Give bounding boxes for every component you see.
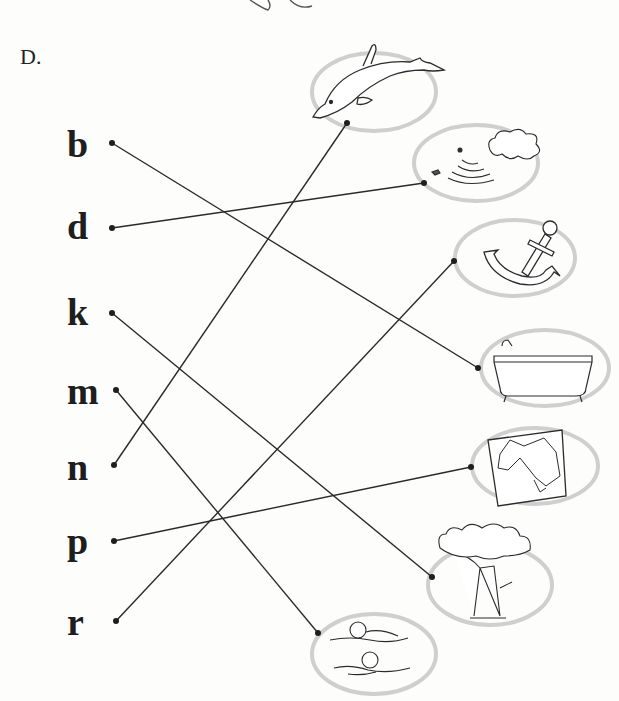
picture-frame-anchor (455, 220, 575, 296)
dot-swimmers[interactable] (315, 630, 321, 636)
line-b-bathtub (112, 143, 478, 368)
dot-b[interactable] (109, 140, 115, 146)
dot-k[interactable] (109, 310, 115, 316)
map-icon (488, 430, 566, 506)
dot-m[interactable] (113, 387, 119, 393)
dolphin-icon (313, 45, 444, 118)
dot-n[interactable] (111, 462, 117, 468)
dot-d[interactable] (109, 225, 115, 231)
splash-icon (432, 129, 540, 183)
dot-dolphin[interactable] (344, 120, 350, 126)
swimmers-icon (330, 622, 410, 675)
dot-splash[interactable] (421, 180, 427, 186)
top-decoration-fragment (250, 0, 312, 10)
line-r-anchor (116, 261, 454, 621)
dot-anchor[interactable] (451, 258, 457, 264)
dot-p[interactable] (111, 538, 117, 544)
line-n-dolphin (114, 123, 347, 465)
dot-r[interactable] (113, 618, 119, 624)
line-d-splash (112, 183, 424, 228)
bathtub-icon (494, 340, 592, 402)
matching-worksheet: D. b d k m n p r (0, 0, 619, 701)
line-m-swimmers (116, 390, 318, 633)
line-p-map (114, 467, 471, 541)
drawing-layer (0, 0, 619, 701)
answer-lines (112, 123, 478, 633)
line-k-tree (112, 313, 432, 577)
dot-map[interactable] (468, 464, 474, 470)
anchor-icon (484, 221, 560, 285)
dot-tree[interactable] (429, 574, 435, 580)
tree-icon (439, 524, 530, 618)
dot-bathtub[interactable] (475, 365, 481, 371)
